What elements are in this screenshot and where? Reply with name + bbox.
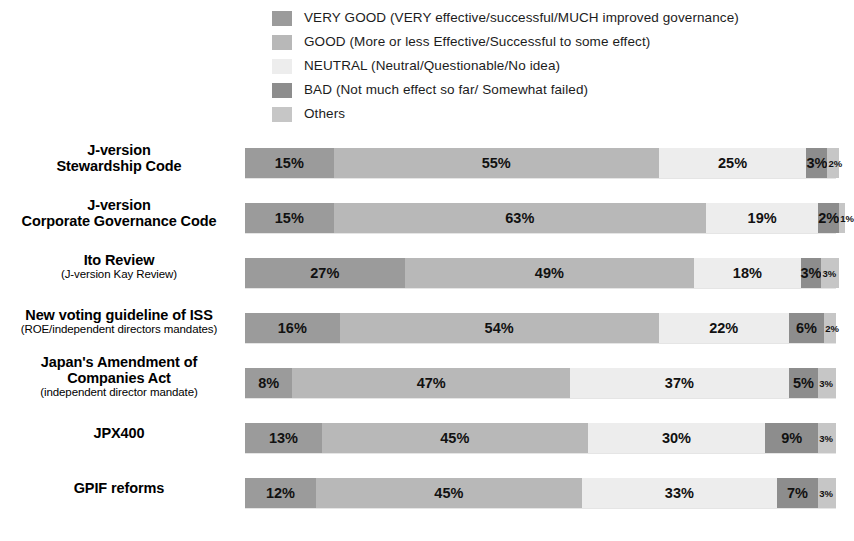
row-label-title: Ito Review bbox=[0, 252, 238, 268]
row-label-title: Stewardship Code bbox=[0, 158, 238, 174]
row-label-title: J-version bbox=[0, 197, 238, 213]
row-label-title: New voting guideline of ISS bbox=[0, 307, 238, 323]
bar-segment: 5% bbox=[789, 368, 819, 398]
bar-wrapper: 13%45%30%9%3% bbox=[245, 423, 836, 453]
legend-item-bad: BAD (Not much effect so far/ Somewhat fa… bbox=[272, 78, 842, 102]
bar-segment: 16% bbox=[245, 313, 340, 343]
legend-label-neutral: NEUTRAL (Neutral/Questionable/No idea) bbox=[304, 59, 560, 73]
bar-segment-value: 49% bbox=[535, 265, 564, 281]
bar-wrapper: 12%45%33%7%3% bbox=[245, 478, 836, 508]
bar-wrapper: 15%63%19%2%1% bbox=[245, 203, 836, 233]
legend-label-others: Others bbox=[304, 107, 345, 121]
bar-segment-value: 1% bbox=[840, 213, 854, 224]
bar-segment: 27% bbox=[245, 258, 405, 288]
row-label-title: JPX400 bbox=[0, 425, 238, 441]
bar-segment: 9% bbox=[765, 423, 818, 453]
bar-segment-value: 3% bbox=[822, 268, 836, 279]
bar-segment: 55% bbox=[334, 148, 659, 178]
bar-segment-value: 3% bbox=[819, 488, 833, 499]
bar-segment: 6% bbox=[789, 313, 824, 343]
bar-segment-value: 13% bbox=[269, 430, 298, 446]
bar-segment-value: 33% bbox=[665, 485, 694, 501]
bar-segment-value: 22% bbox=[709, 320, 738, 336]
bar-segment: 3% bbox=[818, 368, 836, 398]
row-label: JPX400 bbox=[0, 425, 238, 441]
bar-segment: 13% bbox=[245, 423, 322, 453]
chart-row: JPX40013%45%30%9%3% bbox=[0, 415, 846, 470]
bar-segment: 3% bbox=[821, 258, 839, 288]
bar-segment: 18% bbox=[694, 258, 800, 288]
bar-segment-value: 2% bbox=[828, 158, 842, 169]
legend-swatch-very_good bbox=[272, 11, 292, 26]
bar-segment-value: 15% bbox=[275, 210, 304, 226]
bar-segment-value: 8% bbox=[258, 375, 279, 391]
row-label-title: Corporate Governance Code bbox=[0, 213, 238, 229]
bar-wrapper: 8%47%37%5%3% bbox=[245, 368, 836, 398]
bar-segment-value: 45% bbox=[440, 430, 469, 446]
bar-segment-value: 12% bbox=[266, 485, 295, 501]
stacked-bar: 12%45%33%7%3% bbox=[245, 478, 836, 508]
stacked-bar: 15%63%19%2%1% bbox=[245, 203, 836, 233]
bar-wrapper: 16%54%22%6%2% bbox=[245, 313, 836, 343]
bar-segment-value: 3% bbox=[819, 433, 833, 444]
bar-segment-value: 7% bbox=[787, 485, 808, 501]
bar-segment-value: 3% bbox=[806, 155, 827, 171]
row-label: J-versionCorporate Governance Code bbox=[0, 197, 238, 229]
bar-segment: 3% bbox=[806, 148, 827, 178]
chart-row: New voting guideline of ISS(ROE/independ… bbox=[0, 305, 846, 360]
bar-segment: 8% bbox=[245, 368, 292, 398]
row-label: J-versionStewardship Code bbox=[0, 142, 238, 174]
bar-segment: 19% bbox=[706, 203, 818, 233]
legend-swatch-bad bbox=[272, 83, 292, 98]
stacked-bar: 27%49%18%3%3% bbox=[245, 258, 836, 288]
row-label-subtitle: (ROE/independent directors mandates) bbox=[0, 323, 238, 336]
stacked-bar: 8%47%37%5%3% bbox=[245, 368, 836, 398]
row-label: Ito Review(J-version Kay Review) bbox=[0, 252, 238, 281]
bar-segment: 47% bbox=[292, 368, 570, 398]
bar-segment: 49% bbox=[405, 258, 695, 288]
bar-segment-value: 2% bbox=[825, 323, 839, 334]
bar-segment-value: 15% bbox=[275, 155, 304, 171]
bar-segment-value: 54% bbox=[485, 320, 514, 336]
stacked-bar: 16%54%22%6%2% bbox=[245, 313, 836, 343]
bar-segment-value: 5% bbox=[793, 375, 814, 391]
bar-wrapper: 15%55%25%3%2% bbox=[245, 148, 836, 178]
row-label-title: J-version bbox=[0, 142, 238, 158]
bar-segment: 3% bbox=[818, 423, 836, 453]
stacked-bar: 13%45%30%9%3% bbox=[245, 423, 836, 453]
legend-item-very_good: VERY GOOD (VERY effective/successful/MUC… bbox=[272, 6, 842, 30]
bar-segment: 63% bbox=[334, 203, 706, 233]
bar-segment-value: 9% bbox=[781, 430, 802, 446]
bar-segment-value: 6% bbox=[796, 320, 817, 336]
bar-segment-value: 3% bbox=[801, 265, 822, 281]
bar-segment: 22% bbox=[659, 313, 789, 343]
bar-segment: 2% bbox=[818, 203, 839, 233]
bar-segment-value: 45% bbox=[434, 485, 463, 501]
chart-row: Ito Review(J-version Kay Review)27%49%18… bbox=[0, 250, 846, 305]
row-label: GPIF reforms bbox=[0, 480, 238, 496]
chart-row: J-versionStewardship Code15%55%25%3%2% bbox=[0, 140, 846, 195]
bar-segment-value: 19% bbox=[748, 210, 777, 226]
bar-segment: 37% bbox=[570, 368, 789, 398]
row-label: Japan's Amendment ofCompanies Act(indepe… bbox=[0, 354, 238, 399]
legend-item-good: GOOD (More or less Effective/Successful … bbox=[272, 30, 842, 54]
chart-row: GPIF reforms12%45%33%7%3% bbox=[0, 470, 846, 525]
bar-segment: 45% bbox=[316, 478, 582, 508]
bar-segment: 54% bbox=[340, 313, 659, 343]
bar-segment-value: 37% bbox=[665, 375, 694, 391]
bar-segment: 30% bbox=[588, 423, 765, 453]
bar-segment-value: 3% bbox=[819, 378, 833, 389]
bar-segment-value: 55% bbox=[482, 155, 511, 171]
legend-label-good: GOOD (More or less Effective/Successful … bbox=[304, 35, 650, 49]
chart-legend: VERY GOOD (VERY effective/successful/MUC… bbox=[272, 6, 842, 126]
bar-segment: 1% bbox=[839, 203, 845, 233]
bar-segment: 12% bbox=[245, 478, 316, 508]
legend-swatch-neutral bbox=[272, 59, 292, 74]
row-label-subtitle: (independent director mandate) bbox=[0, 386, 238, 399]
bar-segment-value: 27% bbox=[310, 265, 339, 281]
legend-swatch-others bbox=[272, 107, 292, 122]
stacked-bar-chart: J-versionStewardship Code15%55%25%3%2%J-… bbox=[0, 140, 846, 525]
bar-segment: 33% bbox=[582, 478, 777, 508]
bar-segment-value: 30% bbox=[662, 430, 691, 446]
chart-row: J-versionCorporate Governance Code15%63%… bbox=[0, 195, 846, 250]
